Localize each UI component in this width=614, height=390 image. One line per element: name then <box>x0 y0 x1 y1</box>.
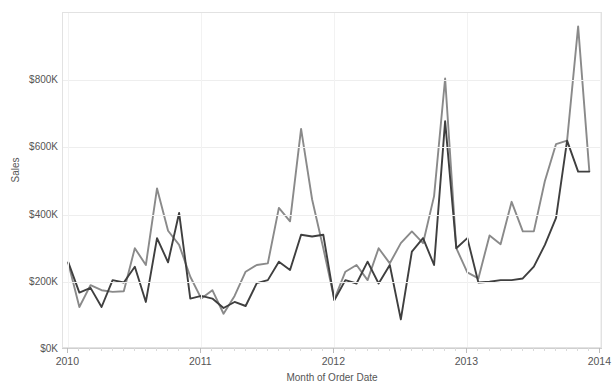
gridline-horizontal <box>63 80 601 81</box>
x-axis-tick-minor <box>522 348 523 351</box>
x-axis-tick-minor <box>511 348 512 351</box>
plot-area <box>62 12 602 348</box>
x-axis-tick-minor <box>156 348 157 351</box>
x-axis-tick-minor <box>278 348 279 351</box>
gridline-vertical <box>600 13 601 347</box>
x-axis-tick-label: 2012 <box>322 355 345 367</box>
x-axis-tick-minor <box>78 348 79 351</box>
x-axis-tick-minor <box>355 348 356 351</box>
x-axis-tick-minor <box>167 348 168 351</box>
gridline-vertical <box>201 13 202 347</box>
x-axis-tick-minor <box>444 348 445 351</box>
x-axis-tick-minor <box>588 348 589 351</box>
x-axis-tick-major <box>333 348 334 353</box>
x-axis-tick-major <box>599 348 600 353</box>
y-axis-tick-label: $800K <box>0 74 58 85</box>
x-axis-tick-minor <box>433 348 434 351</box>
y-axis-tick-label: $0K <box>0 343 58 354</box>
x-axis-tick-minor <box>245 348 246 351</box>
x-axis-tick-minor <box>533 348 534 351</box>
x-axis-tick-minor <box>234 348 235 351</box>
x-axis-tick-minor <box>378 348 379 351</box>
x-axis-tick-minor <box>344 348 345 351</box>
x-axis-tick-label: 2011 <box>189 355 212 367</box>
gridline-vertical <box>467 13 468 347</box>
x-axis-tick-minor <box>500 348 501 351</box>
x-axis-tick-minor <box>289 348 290 351</box>
x-axis-tick-minor <box>367 348 368 351</box>
x-axis-tick-minor <box>400 348 401 351</box>
x-axis-tick-minor <box>189 348 190 351</box>
clipped-header-text <box>62 0 602 3</box>
x-axis-tick-minor <box>544 348 545 351</box>
line-chart: Sales $0K$200K$400K$600K$800K 2010201120… <box>0 0 614 390</box>
x-axis-tick-major <box>67 348 68 353</box>
y-axis-tick-label: $400K <box>0 208 58 219</box>
x-axis-tick-minor <box>267 348 268 351</box>
x-axis-tick-minor <box>577 348 578 351</box>
x-axis-tick-minor <box>455 348 456 351</box>
x-axis-tick-minor <box>311 348 312 351</box>
y-axis-tick-labels: $0K$200K$400K$600K$800K <box>0 0 58 390</box>
x-axis-tick-minor <box>256 348 257 351</box>
gridline-vertical <box>334 13 335 347</box>
x-axis-tick-minor <box>145 348 146 351</box>
x-axis-tick-major <box>200 348 201 353</box>
y-axis-tick-label: $600K <box>0 141 58 152</box>
x-axis-tick-minor <box>411 348 412 351</box>
x-axis-tick-minor <box>222 348 223 351</box>
x-axis-tick-minor <box>300 348 301 351</box>
series-svg <box>63 13 602 348</box>
x-axis-tick-minor <box>477 348 478 351</box>
y-axis-tick-label: $200K <box>0 275 58 286</box>
x-axis-tick-minor <box>211 348 212 351</box>
gridline-horizontal <box>63 282 601 283</box>
x-axis-tick-minor <box>322 348 323 351</box>
gridline-horizontal <box>63 215 601 216</box>
x-axis-tick-minor <box>422 348 423 351</box>
x-axis-tick-minor <box>89 348 90 351</box>
x-axis-tick-minor <box>123 348 124 351</box>
x-axis-tick-label: 2010 <box>56 355 79 367</box>
x-axis-tick-minor <box>555 348 556 351</box>
x-axis-tick-minor <box>134 348 135 351</box>
series-line-1 <box>68 121 589 319</box>
x-axis-tick-minor <box>489 348 490 351</box>
x-axis-tick-label: 2014 <box>588 355 611 367</box>
gridline-horizontal <box>63 147 601 148</box>
x-axis-tick-minor <box>178 348 179 351</box>
gridline-vertical <box>68 13 69 347</box>
x-axis-tick-minor <box>389 348 390 351</box>
x-axis-tick-major <box>466 348 467 353</box>
x-axis-tick-label: 2013 <box>455 355 478 367</box>
x-axis-tick-minor <box>566 348 567 351</box>
x-axis-tick-minor <box>101 348 102 351</box>
x-axis-tick-minor <box>112 348 113 351</box>
x-axis-title: Month of Order Date <box>62 372 602 383</box>
